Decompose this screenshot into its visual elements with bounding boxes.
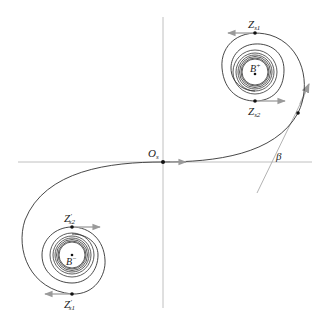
trajectory-upper <box>163 33 304 162</box>
label-z-s2: Zs2 <box>248 105 261 119</box>
label-b-plus: B+ <box>250 62 261 74</box>
dot-z-s2 <box>253 99 257 103</box>
dot-z-s1-prime <box>70 292 74 296</box>
dot-tangent-point <box>296 111 300 115</box>
dot-origin <box>161 160 165 164</box>
label-beta: β <box>275 150 282 162</box>
label-z-s2-prime: Z′s2 <box>64 212 75 226</box>
label-z-s1-prime: Z′s1 <box>64 298 75 312</box>
label-b-minus: B− <box>66 255 77 267</box>
label-origin: Os <box>148 147 159 161</box>
spiral-trajectory-diagram: Os Zs1 Zs2 B+ Z′s2 B− Z′s1 β <box>0 0 331 321</box>
label-z-s1: Zs1 <box>248 18 260 32</box>
trajectory-lower <box>22 162 163 294</box>
